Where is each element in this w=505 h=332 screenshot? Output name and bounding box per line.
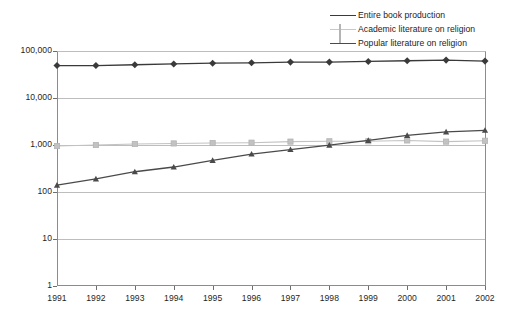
x-axis-tick-label: 1992	[74, 293, 118, 303]
x-axis-tick-label: 1995	[191, 293, 235, 303]
x-axis-tick	[368, 286, 369, 290]
series-3	[54, 127, 488, 187]
data-point-square	[93, 142, 98, 147]
x-axis-tick-label: 1991	[35, 293, 79, 303]
x-axis-tick	[96, 286, 97, 290]
x-axis-tick-label: 1996	[230, 293, 274, 303]
series-line	[57, 140, 485, 146]
data-point-diamond	[131, 61, 138, 68]
data-point-square	[132, 141, 137, 146]
data-point-square	[405, 138, 410, 143]
series-2	[54, 138, 487, 149]
x-axis-tick	[174, 286, 175, 290]
data-point-square	[443, 139, 448, 144]
x-axis-tick	[407, 286, 408, 290]
x-axis-tick-label: 1993	[113, 293, 157, 303]
data-point-square	[171, 141, 176, 146]
x-axis-tick-label: 2001	[424, 293, 468, 303]
x-axis-tick	[485, 286, 486, 290]
x-axis-tick	[135, 286, 136, 290]
x-axis-tick-label: 1997	[268, 293, 312, 303]
x-axis-tick	[446, 286, 447, 290]
data-point-diamond	[404, 57, 411, 64]
x-axis-tick	[252, 286, 253, 290]
data-point-diamond	[287, 59, 294, 66]
x-axis-tick-label: 2000	[385, 293, 429, 303]
data-point-diamond	[326, 59, 333, 66]
data-point-diamond	[170, 60, 177, 67]
data-point-square	[249, 140, 254, 145]
x-axis-tick-label: 1994	[152, 293, 196, 303]
data-point-square	[210, 140, 215, 145]
series-layer	[57, 51, 486, 286]
series-1	[53, 57, 488, 70]
data-point-diamond	[92, 62, 99, 69]
data-point-square	[482, 138, 487, 143]
x-axis-tick-label: 2002	[463, 293, 505, 303]
x-axis-tick-label: 1999	[346, 293, 390, 303]
x-axis-tick-label: 1998	[307, 293, 351, 303]
data-point-diamond	[209, 60, 216, 67]
series-line	[57, 130, 485, 185]
data-point-diamond	[443, 57, 450, 64]
series-line	[57, 60, 485, 65]
x-axis-tick	[290, 286, 291, 290]
data-point-square	[54, 143, 59, 148]
x-axis-tick	[213, 286, 214, 290]
data-point-square	[288, 139, 293, 144]
chart-container: Entire book production Academic literatu…	[0, 0, 505, 332]
data-point-diamond	[365, 58, 372, 65]
x-axis-tick	[329, 286, 330, 290]
data-point-diamond	[248, 59, 255, 66]
